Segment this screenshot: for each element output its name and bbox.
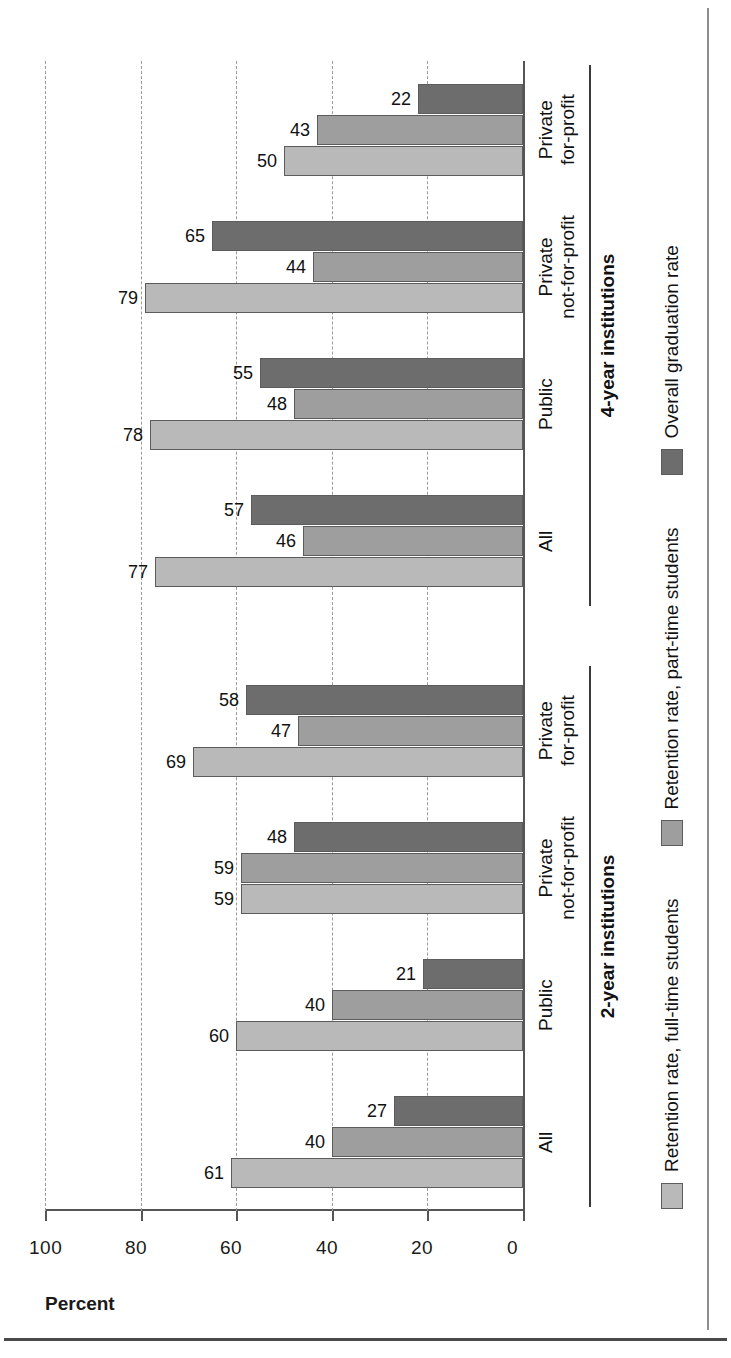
chart-page: Percent 020406080100 6140276040215959486…	[0, 0, 731, 1358]
axis-tick-label: 20	[411, 1237, 433, 1259]
category-label: Private for-profit	[535, 662, 579, 799]
chart-stage: Percent 020406080100 6140276040215959486…	[21, 29, 711, 1329]
legend-item[interactable]: Retention rate, full-time students	[661, 898, 683, 1209]
bar	[193, 747, 523, 777]
bar	[145, 283, 523, 313]
bar	[150, 420, 523, 450]
bar-value-label: 59	[214, 858, 234, 879]
category-label: Public	[535, 336, 557, 473]
axis-tick	[141, 1211, 143, 1221]
category-label: Public	[535, 937, 557, 1074]
bar-value-label: 79	[118, 288, 138, 309]
section-rule	[589, 65, 591, 606]
bar	[418, 84, 523, 114]
legend: Retention rate, full-time studentsRetent…	[661, 245, 683, 1209]
bar-value-label: 65	[185, 226, 205, 247]
category-label: Private not-for-profit	[535, 198, 579, 335]
bar	[394, 1096, 523, 1126]
category-label: All	[535, 1074, 557, 1211]
category-axis-line	[523, 61, 525, 1211]
legend-item[interactable]: Overall graduation rate	[661, 245, 683, 475]
bar	[284, 146, 523, 176]
bar-value-label: 48	[267, 827, 287, 848]
bar-value-label: 50	[257, 151, 277, 172]
bar	[313, 252, 523, 282]
bar-value-label: 47	[271, 721, 291, 742]
category-label: All	[535, 473, 557, 610]
bar-value-label: 44	[286, 257, 306, 278]
legend-swatch-icon	[661, 449, 683, 475]
bar-value-label: 60	[209, 1026, 229, 1047]
bar	[332, 1127, 523, 1157]
bar	[241, 853, 523, 883]
bar	[294, 822, 523, 852]
bar-value-label: 27	[367, 1101, 387, 1122]
axis-tick	[523, 1211, 525, 1221]
bar-value-label: 61	[204, 1163, 224, 1184]
axis-tick-label: 80	[125, 1237, 147, 1259]
value-axis-line	[45, 1209, 525, 1211]
axis-tick-label: 100	[29, 1237, 62, 1259]
bar	[260, 358, 523, 388]
legend-label: Retention rate, full-time students	[661, 898, 683, 1172]
bar	[155, 557, 523, 587]
bar	[231, 1158, 523, 1188]
axis-tick	[427, 1211, 429, 1221]
bar	[303, 526, 523, 556]
bar-value-label: 21	[396, 964, 416, 985]
axis-tick	[236, 1211, 238, 1221]
bar-value-label: 77	[128, 562, 148, 583]
bar	[332, 990, 523, 1020]
bar-value-label: 57	[224, 500, 244, 521]
bar-value-label: 43	[290, 120, 310, 141]
bar-value-label: 58	[219, 690, 239, 711]
bar-value-label: 46	[276, 531, 296, 552]
section-title: 4-year institutions	[597, 65, 619, 606]
axis-tick-label: 0	[507, 1237, 518, 1259]
legend-swatch-icon	[661, 820, 683, 846]
bar-value-label: 22	[391, 89, 411, 110]
axis-title-percent: Percent	[45, 1293, 115, 1315]
bar	[241, 884, 523, 914]
legend-swatch-icon	[661, 1183, 683, 1209]
axis-tick-label: 60	[220, 1237, 242, 1259]
legend-item[interactable]: Retention rate, part-time students	[661, 527, 683, 846]
bar-value-label: 40	[305, 995, 325, 1016]
bar	[317, 115, 523, 145]
bar-value-label: 78	[123, 425, 143, 446]
bar-value-label: 59	[214, 889, 234, 910]
bar	[251, 495, 523, 525]
bar	[236, 1021, 523, 1051]
bar-value-label: 40	[305, 1132, 325, 1153]
bar-value-label: 55	[233, 363, 253, 384]
category-label: Private for-profit	[535, 61, 579, 198]
section-title: 2-year institutions	[597, 666, 619, 1207]
gridline	[45, 61, 46, 1211]
legend-label: Retention rate, part-time students	[661, 527, 683, 809]
bar	[246, 685, 523, 715]
axis-tick	[45, 1211, 47, 1221]
bar-value-label: 69	[166, 752, 186, 773]
bar-value-label: 48	[267, 394, 287, 415]
legend-label: Overall graduation rate	[661, 245, 683, 438]
bar	[294, 389, 523, 419]
section-rule	[589, 666, 591, 1207]
page-bottom-rule	[4, 1338, 727, 1341]
category-label: Private not-for-profit	[535, 799, 579, 936]
bar	[423, 959, 523, 989]
axis-tick	[332, 1211, 334, 1221]
gridline	[141, 61, 142, 1211]
bar	[298, 716, 523, 746]
bar	[212, 221, 523, 251]
axis-tick-label: 40	[316, 1237, 338, 1259]
